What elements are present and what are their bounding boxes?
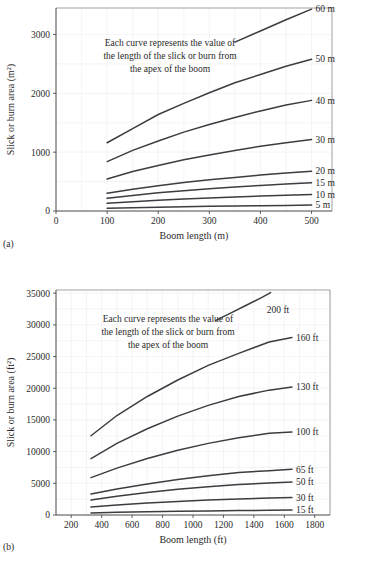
- x-axis-tick-label: 500: [304, 216, 319, 226]
- chart-panel-b: 2004006008001000120014001600180005000100…: [0, 250, 373, 565]
- chart-annotation-line: the length of the slick or burn from: [103, 51, 237, 61]
- panel-letter: (b): [3, 542, 14, 553]
- y-axis-tick-label: 1000: [31, 148, 50, 158]
- chart-annotation-line: the apex of the boom: [128, 340, 209, 350]
- y-axis-tick-label: 20000: [26, 384, 50, 394]
- y-axis-tick-label: 25000: [26, 352, 50, 362]
- data-curve-65-ft: [91, 469, 292, 494]
- curve-label-15-m: 15 m: [316, 178, 336, 188]
- x-axis-tick-label: 200: [64, 520, 79, 530]
- x-axis-tick-label: 400: [95, 520, 110, 530]
- x-axis-tick-label: 1800: [305, 520, 324, 530]
- y-axis-tick-label: 35000: [26, 289, 50, 299]
- data-curve-50-ft: [91, 482, 292, 500]
- x-axis-title: Boom length (m): [160, 230, 229, 242]
- chart-svg-a: 01002003004005000100020003000Boom length…: [0, 0, 373, 250]
- chart-annotation-line: Each curve represents the value of: [103, 314, 234, 324]
- curve-label-130-ft: 130 ft: [296, 382, 319, 392]
- curve-label-65-ft: 65 ft: [296, 465, 314, 475]
- curve-label-20-m: 20 m: [316, 166, 336, 176]
- curve-label-50-ft: 50 ft: [296, 477, 314, 487]
- x-axis-tick-label: 0: [54, 216, 59, 226]
- x-axis-tick-label: 800: [155, 520, 170, 530]
- data-curve-15-ft: [91, 510, 292, 513]
- curve-label-10-m: 10 m: [316, 190, 336, 200]
- y-axis-tick-label: 10000: [26, 447, 50, 457]
- x-axis-tick-label: 1000: [184, 520, 203, 530]
- curve-label-5-m: 5 m: [316, 200, 331, 210]
- data-curve-60-m: [235, 9, 312, 42]
- curve-label-100-ft: 100 ft: [296, 427, 319, 437]
- y-axis-tick-label: 5000: [31, 479, 50, 489]
- y-axis-tick-label: 30000: [26, 320, 50, 330]
- chart-panel-a: 01002003004005000100020003000Boom length…: [0, 0, 373, 250]
- x-axis-tick-label: 1200: [214, 520, 233, 530]
- x-axis-tick-label: 1400: [244, 520, 263, 530]
- curve-label-30-m: 30 m: [316, 135, 336, 145]
- y-axis-tick-label: 15000: [26, 415, 50, 425]
- panel-letter: (a): [3, 239, 14, 250]
- x-axis-tick-label: 300: [202, 216, 217, 226]
- y-axis-tick-label: 0: [45, 510, 50, 520]
- y-axis-tick-label: 0: [45, 206, 50, 216]
- y-axis-tick-label: 2000: [31, 89, 50, 99]
- curve-label-200-ft: 200 ft: [267, 305, 290, 315]
- chart-svg-b: 2004006008001000120014001600180005000100…: [0, 250, 373, 565]
- x-axis-title: Boom length (ft): [159, 534, 226, 546]
- chart-annotation-line: the apex of the boom: [130, 64, 211, 74]
- curve-label-40-m: 40 m: [316, 96, 336, 106]
- curve-label-15-ft: 15 ft: [296, 505, 314, 515]
- x-axis-tick-label: 400: [253, 216, 268, 226]
- y-axis-title: Slick or burn area (m²): [5, 64, 17, 155]
- x-axis-tick-label: 1600: [275, 520, 294, 530]
- curve-label-60-m: 60 m: [316, 4, 336, 14]
- chart-annotation-line: Each curve represents the value of: [105, 38, 236, 48]
- y-axis-tick-label: 3000: [31, 30, 50, 40]
- curve-label-160-ft: 160 ft: [296, 333, 319, 343]
- curve-label-50-m: 50 m: [316, 54, 336, 64]
- x-axis-tick-label: 100: [100, 216, 115, 226]
- data-curve-160-ft: [91, 338, 292, 436]
- x-axis-tick-label: 600: [125, 520, 140, 530]
- curve-label-30-ft: 30 ft: [296, 493, 314, 503]
- chart-annotation-line: the length of the slick or burn from: [101, 327, 235, 337]
- y-axis-title: Slick or burn area (ft²): [5, 358, 17, 448]
- x-axis-tick-label: 200: [151, 216, 166, 226]
